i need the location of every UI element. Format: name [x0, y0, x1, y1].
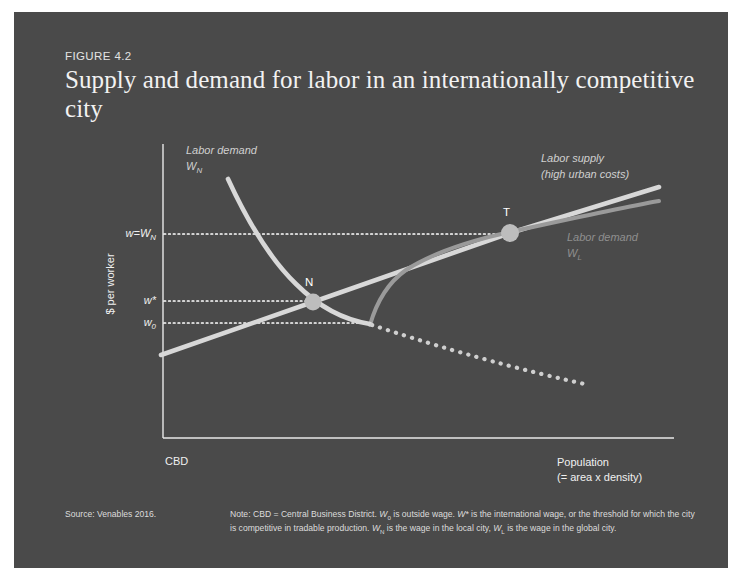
- annotation-labor-demand-wl-line2: WL: [567, 246, 638, 264]
- figure-card: FIGURE 4.2 Supply and demand for labor i…: [14, 12, 728, 568]
- point-label-n: N: [305, 276, 313, 288]
- annotation-wn-main: W: [186, 160, 196, 172]
- chart-plot-area: $ per worker w=WN w* w0 CBD Population (…: [14, 12, 728, 568]
- source-note: Source: Venables 2016.: [65, 504, 230, 520]
- annotation-labor-supply: Labor supply (high urban costs): [541, 151, 629, 183]
- annotation-labor-demand-wn: Labor demand WN: [186, 143, 257, 177]
- y-axis-title: $ per worker: [104, 253, 116, 314]
- curve-labor-supply: [161, 187, 659, 355]
- annotation-wl-sub: L: [577, 253, 581, 262]
- note-line2-c: is the wage in the global city.: [505, 523, 617, 533]
- annotation-wn-sub: N: [196, 166, 202, 175]
- point-marker-n: [305, 294, 322, 311]
- y-tick-main-w-star: w*: [144, 294, 156, 306]
- x-axis-title-line2: (= area x density): [557, 470, 642, 485]
- y-tick-label-w-zero: w0: [144, 316, 156, 331]
- x-axis-title-line1: Population: [557, 455, 642, 470]
- y-tick-main-w-eq-wn: w=W: [126, 227, 151, 239]
- curve-labor-demand-wn: [228, 179, 370, 324]
- y-tick-sub-w-eq-wn: N: [150, 233, 156, 242]
- figure-footer: Source: Venables 2016. Note: CBD = Centr…: [65, 504, 695, 536]
- note-prefix: Note:: [230, 509, 253, 519]
- figure-note: Note: CBD = Central Business District. W…: [230, 504, 695, 536]
- note-symbol-wn: W: [372, 523, 380, 533]
- y-tick-sub-w-zero: 0: [152, 322, 156, 331]
- annotation-labor-demand-wl-line1: Labor demand: [567, 230, 638, 246]
- note-line1-c: is the international wage, or the thresh…: [469, 509, 665, 519]
- x-axis-title: Population (= area x density): [557, 455, 642, 485]
- annotation-wl-main: W: [567, 247, 577, 259]
- annotation-labor-demand-wl: Labor demand WL: [567, 230, 638, 264]
- y-tick-main-w-zero: w: [144, 316, 152, 328]
- note-symbol-wstar: W*: [457, 509, 468, 519]
- annotation-labor-supply-line2: (high urban costs): [541, 167, 629, 183]
- curve-labor-demand-wn-dotted: [372, 325, 589, 385]
- note-line2-b: is the wage in the local city,: [384, 523, 493, 533]
- annotation-labor-supply-line1: Labor supply: [541, 151, 629, 167]
- note-line1-b: is outside wage.: [391, 509, 457, 519]
- annotation-labor-demand-wn-line1: Labor demand: [186, 143, 257, 159]
- point-marker-t: [501, 224, 519, 242]
- y-tick-label-w-eq-wn: w=WN: [126, 227, 156, 242]
- annotation-labor-demand-wn-line2: WN: [186, 159, 257, 177]
- x-axis-origin-label: CBD: [165, 455, 188, 467]
- point-label-t: T: [503, 206, 510, 218]
- y-tick-label-w-star: w*: [144, 294, 156, 306]
- note-line1-a: CBD = Central Business District.: [253, 509, 379, 519]
